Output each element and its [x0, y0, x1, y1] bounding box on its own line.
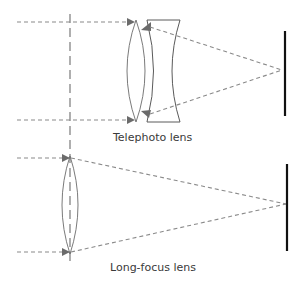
converging-ray-bottom: [150, 70, 282, 114]
converging-ray-top: [71, 158, 286, 204]
long-focus-label: Long-focus lens: [110, 261, 196, 274]
long-focus-group: [17, 156, 287, 254]
arrowhead-bottom: [141, 110, 151, 118]
convex-lens: [127, 20, 145, 122]
telephoto-group: [17, 20, 285, 122]
telephoto-label: Telephoto lens: [113, 131, 192, 144]
converging-ray-bottom: [71, 204, 286, 252]
converging-ray-top: [150, 27, 282, 70]
concave-lens: [147, 20, 180, 122]
arrowhead-top: [141, 22, 151, 31]
